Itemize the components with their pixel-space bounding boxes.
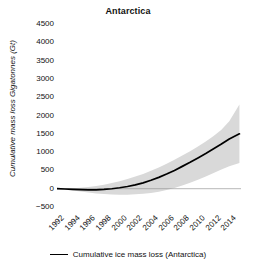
chart-legend: Cumulative ice mass loss (Antarctica) bbox=[0, 250, 256, 259]
plot-svg bbox=[57, 24, 241, 207]
chart-container: Antarctica Cumulative mass loss Gigatonn… bbox=[0, 0, 256, 268]
plot-area bbox=[57, 24, 241, 207]
legend-entry-label: Cumulative ice mass loss (Antarctica) bbox=[73, 250, 206, 259]
legend-line-swatch-icon bbox=[50, 254, 68, 255]
